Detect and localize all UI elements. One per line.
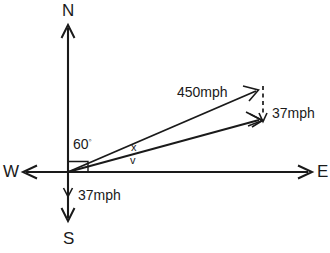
- compass-axes-group: [23, 25, 312, 221]
- angle-label: 60◦: [73, 136, 92, 151]
- angle-value: 60: [73, 136, 89, 152]
- airspeed-vector-line: [68, 91, 256, 172]
- airspeed-label: 450mph: [177, 85, 228, 99]
- airspeed-vector-group: [68, 86, 259, 172]
- diagram-svg: [0, 0, 330, 253]
- compass-label-west: W: [3, 163, 19, 180]
- wind-down-label: 37mph: [78, 188, 121, 202]
- velocity-variable-label: v: [130, 155, 136, 166]
- compass-label-north: N: [62, 2, 74, 19]
- resultant-vector-line: [68, 120, 259, 172]
- degree-symbol-icon: ◦: [89, 135, 92, 145]
- compass-label-east: E: [317, 163, 328, 180]
- wind-right-label: 37mph: [272, 106, 315, 120]
- wind-dashed-group: [259, 86, 267, 122]
- vector-diagram-canvas: N S W E 450mph 37mph 37mph 60◦ x v: [0, 0, 330, 253]
- resultant-vector-group: [68, 112, 263, 172]
- displacement-variable-label: x: [131, 142, 137, 153]
- compass-label-south: S: [63, 230, 74, 247]
- wind-dashed-arrow-icon: [259, 113, 267, 122]
